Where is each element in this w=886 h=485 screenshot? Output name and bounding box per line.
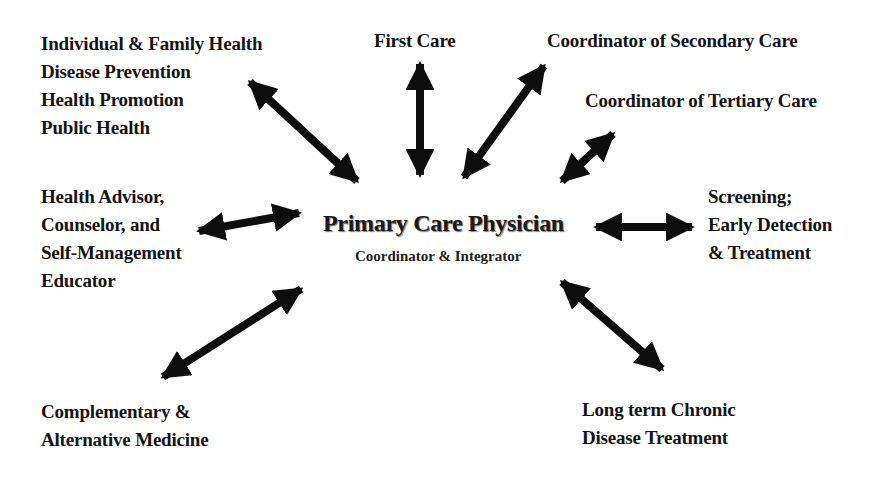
node-screening: Screening; Early Detection & Treatment [708, 183, 832, 267]
node-line: Alternative Medicine [41, 426, 208, 454]
node-line: First Care [374, 27, 456, 55]
node-line: Counselor, and [41, 211, 182, 239]
node-line: Health Promotion [41, 86, 262, 114]
node-line: Educator [41, 267, 182, 295]
node-chronic-disease: Long term Chronic Disease Treatment [582, 396, 736, 452]
node-line: Individual & Family Health [41, 30, 262, 58]
node-health-advisor: Health Advisor, Counselor, and Self-Mana… [41, 183, 182, 295]
node-line: Self-Management [41, 239, 182, 267]
node-line: Screening; [708, 183, 832, 211]
node-complementary-medicine: Complementary & Alternative Medicine [41, 398, 208, 454]
node-line: Disease Treatment [582, 424, 736, 452]
arrow-chronic [562, 282, 662, 369]
node-line: Early Detection [708, 211, 832, 239]
node-secondary-care: Coordinator of Secondary Care [547, 27, 798, 55]
arrow-health-advisor [199, 213, 299, 231]
node-line: Public Health [41, 114, 262, 142]
node-line: & Treatment [708, 239, 832, 267]
arrow-complementary [163, 289, 301, 377]
arrow-secondary-care [464, 66, 544, 177]
node-line: Coordinator of Secondary Care [547, 27, 798, 55]
node-first-care: First Care [374, 27, 456, 55]
node-individual-health: Individual & Family Health Disease Preve… [41, 30, 262, 142]
node-tertiary-care: Coordinator of Tertiary Care [585, 87, 817, 115]
node-line: Complementary & [41, 398, 208, 426]
node-line: Disease Prevention [41, 58, 262, 86]
node-line: Long term Chronic [582, 396, 736, 424]
arrow-individual-health [250, 82, 357, 181]
arrow-tertiary-care [562, 134, 613, 181]
node-line: Coordinator of Tertiary Care [585, 87, 817, 115]
center-subtitle: Coordinator & Integrator [355, 246, 521, 266]
node-line: Health Advisor, [41, 183, 182, 211]
center-title: Primary Care Physician [323, 208, 564, 238]
